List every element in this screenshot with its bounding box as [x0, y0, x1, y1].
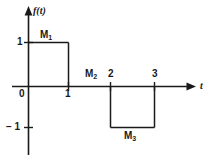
function-plot-figure: f(t) t 0 1 − 1 1 2 3 M1 M2 M3	[0, 0, 216, 162]
region-label-m1: M1	[40, 30, 52, 40]
x-axis-label: t	[200, 81, 203, 91]
pulse-m1-positive	[29, 43, 69, 87]
region-label-m3: M3	[124, 131, 136, 141]
x-tick-label-3: 3	[152, 69, 158, 79]
origin-label: 0	[19, 89, 25, 99]
y-tick-label-1: 1	[17, 37, 23, 47]
region-label-m1-subscript: 1	[48, 34, 52, 41]
y-axis	[25, 6, 33, 155]
x-tick-label-2: 2	[108, 69, 114, 79]
region-label-m2-subscript: 2	[93, 73, 97, 80]
plot-canvas	[0, 0, 216, 162]
x-tick-label-1: 1	[65, 89, 71, 99]
region-label-m2: M2	[85, 69, 97, 79]
region-label-m3-subscript: 3	[132, 135, 136, 142]
y-axis-label: f(t)	[33, 6, 46, 16]
x-axis	[12, 83, 196, 91]
y-tick-label-minus-1: − 1	[6, 122, 20, 132]
pulse-m3-negative	[111, 87, 155, 128]
